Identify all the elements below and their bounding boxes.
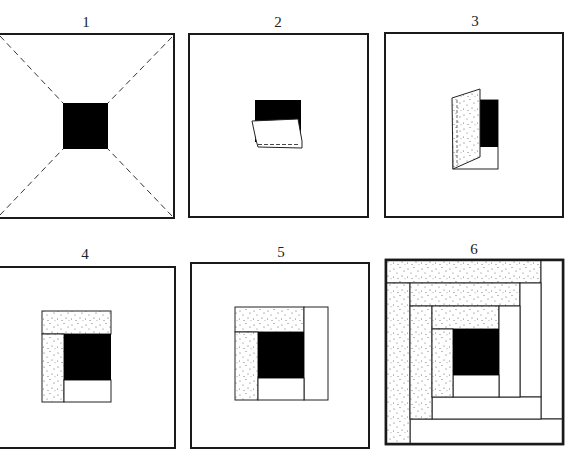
dark-strip-left [42,334,64,402]
dark-strip-left-2 [410,306,432,419]
light-strip-right-2 [520,283,541,397]
center-square [63,103,108,149]
step-label-3: 3 [471,13,479,29]
step-label-1: 1 [82,14,90,30]
center-square [258,332,304,378]
light-strip-bottom [64,380,111,402]
dark-strip-left [235,332,258,400]
panel-4: 4 [0,246,175,448]
panel-2: 2 [189,14,368,217]
light-strip-right-1 [499,306,520,397]
light-strip-bottom-2 [432,397,541,419]
dark-strip-flap [452,89,480,169]
center-square [64,334,111,380]
panel-5: 5 [191,244,369,448]
panel-3: 3 [385,13,563,217]
panel-6: 6 [386,241,563,444]
dark-strip-top-3 [386,260,541,283]
light-strip-bottom [258,378,304,400]
dark-strip-left-3 [386,283,410,444]
center-square [453,329,499,375]
light-strip-right-3 [541,260,563,419]
light-strip-flap [252,119,302,148]
quilt-diagram: 1 2 3 4 5 [0,0,577,466]
dark-strip-top-2 [410,283,520,306]
dark-strip-top [235,307,304,332]
step-label-2: 2 [274,14,282,30]
dark-strip-top-1 [432,306,499,329]
step-label-5: 5 [277,244,285,260]
step-label-4: 4 [81,246,89,262]
panel-1: 1 [0,14,174,218]
dark-strip-left-1 [432,329,453,397]
center-square [480,100,498,147]
dark-strip-top [42,311,111,334]
light-strip-right [304,307,328,400]
light-strip-bottom-3 [410,419,563,444]
light-strip-bottom-1 [453,375,499,397]
step-label-6: 6 [470,241,478,257]
